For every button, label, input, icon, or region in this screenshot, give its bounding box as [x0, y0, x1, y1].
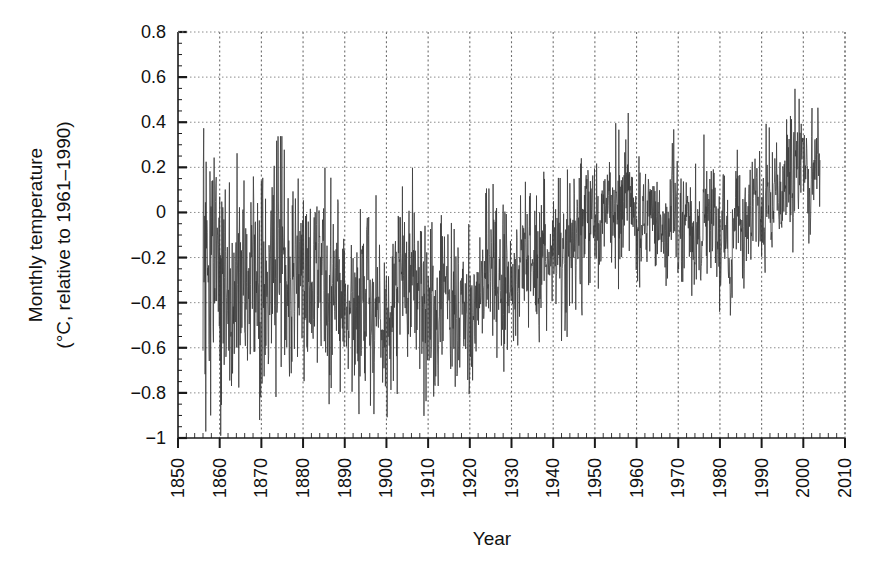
x-tick-label: 1940 [543, 458, 563, 498]
x-tick-label: 1900 [376, 458, 396, 498]
y-tick-label: 0.4 [141, 112, 166, 132]
x-tick-label: 1990 [752, 458, 772, 498]
gridlines [178, 32, 845, 438]
y-axis-ticks [178, 32, 187, 438]
y-tick-label: −0.4 [130, 293, 166, 313]
y-tick-label: 0.8 [141, 22, 166, 42]
y-tick-label: −0.2 [130, 248, 166, 268]
y-axis-label-line2: (°C, relative to 1961–1990) [53, 121, 74, 348]
y-tick-label: 0.2 [141, 157, 166, 177]
x-tick-label: 1950 [585, 458, 605, 498]
x-tick-label: 1920 [460, 458, 480, 498]
x-tick-label: 1890 [335, 458, 355, 498]
x-axis-ticks [178, 433, 845, 448]
y-tick-label: 0 [156, 202, 166, 222]
x-tick-label: 1910 [418, 458, 438, 498]
x-tick-label: 1880 [293, 458, 313, 498]
x-tick-label: 1850 [168, 458, 188, 498]
y-tick-label: 0.6 [141, 67, 166, 87]
y-tick-label: −0.6 [130, 338, 166, 358]
x-tick-label: 1860 [210, 458, 230, 498]
y-tick-label: −1 [145, 428, 166, 448]
temperature-anomaly-figure: −1−0.8−0.6−0.4−0.200.20.40.60.8 18501860… [0, 0, 890, 575]
x-axis-tick-labels: 1850186018701880189019001910192019301940… [168, 458, 855, 498]
x-tick-label: 1930 [502, 458, 522, 498]
x-tick-label: 1970 [668, 458, 688, 498]
x-tick-label: 2010 [835, 458, 855, 498]
y-axis-label-line1: Monthly temperature [25, 148, 46, 322]
x-tick-label: 2000 [793, 458, 813, 498]
x-tick-label: 1980 [710, 458, 730, 498]
x-axis-label: Year [473, 528, 512, 549]
x-tick-label: 1960 [627, 458, 647, 498]
chart-canvas: −1−0.8−0.6−0.4−0.200.20.40.60.8 18501860… [0, 0, 890, 575]
y-tick-label: −0.8 [130, 383, 166, 403]
y-axis-tick-labels: −1−0.8−0.6−0.4−0.200.20.40.60.8 [130, 22, 166, 448]
x-tick-label: 1870 [251, 458, 271, 498]
